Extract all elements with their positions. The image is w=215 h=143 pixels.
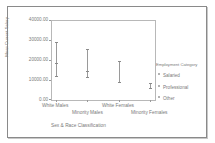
legend-label: Professional [163,85,188,90]
ytick-label-0: 0.00 [10,97,48,102]
ytick-label-20000: 20000.00 [10,57,48,62]
error-cap [55,76,58,77]
legend-item-salaried: Salaried [158,73,180,79]
xtick-label-minority-males: Minority Males [72,110,103,115]
ytick-mark [49,99,51,100]
error-cap [149,83,152,84]
error-cap [55,42,58,43]
error-bar-minority-males [87,49,88,77]
xtick-mark [56,100,57,102]
x-axis-label: Sex & Race Classification [51,123,106,128]
ytick-label-10000: 10000.00 [10,77,48,82]
ytick-mark [49,80,51,81]
legend-label: Other [163,96,175,101]
error-cap [86,49,89,50]
ytick-mark [49,20,51,21]
legend-marker-icon [158,96,160,98]
xtick-mark [150,100,151,102]
error-bar-white-males [56,42,57,76]
legend-marker-icon [158,85,160,87]
error-bar-white-females [119,61,120,82]
legend-label: Salaried [163,73,180,78]
legend-marker-icon [158,73,160,75]
error-mid-tick [55,63,58,64]
y-axis-label: Mean Current Salary [4,14,9,60]
error-cap [86,77,89,78]
ytick-label-30000: 30000.00 [10,37,48,42]
error-mid-tick [86,71,89,72]
legend-item-professional: Professional [158,85,188,91]
legend-item-other: Other [158,96,175,102]
xtick-label-white-males: White Males [42,103,68,108]
ytick-mark [49,60,51,61]
ytick-label-40000: 40000.00 [10,17,48,22]
xtick-label-minority-females: Minority Females [131,110,168,115]
xtick-mark [119,100,120,102]
error-cap [149,88,152,89]
xtick-label-white-females: White Females [102,103,134,108]
error-cap [118,61,121,62]
plot-area [51,20,156,101]
ytick-mark [49,40,51,41]
error-cap [118,82,121,83]
legend-title: Employment Category [156,62,197,67]
xtick-mark [87,100,88,102]
